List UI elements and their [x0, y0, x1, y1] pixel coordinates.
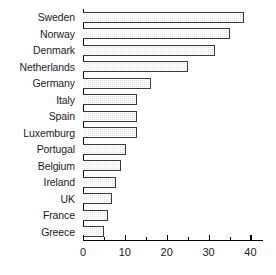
bar-row — [83, 125, 263, 142]
x-axis-tick-minor — [188, 237, 189, 241]
category-label: Spain — [0, 108, 79, 125]
bar — [83, 177, 116, 188]
x-axis-tick-major — [209, 235, 210, 241]
x-axis-tick-major — [125, 235, 126, 241]
bar-row — [83, 108, 263, 125]
bar — [83, 28, 230, 39]
bar-chart: SwedenNorwayDenmarkNetherlandsGermanyIta… — [0, 0, 276, 275]
x-axis-tick-major — [83, 235, 84, 241]
x-axis-tick-label: 20 — [161, 245, 173, 259]
category-label: Belgium — [0, 158, 79, 175]
x-axis — [83, 240, 263, 242]
x-axis-tick-label: 0 — [80, 245, 86, 259]
bar — [83, 144, 126, 155]
x-axis-tick-minor — [230, 237, 231, 241]
x-axis-tick-label: 10 — [119, 245, 131, 259]
bar — [83, 226, 104, 237]
bar-series — [83, 9, 263, 240]
bar-row — [83, 26, 263, 43]
x-axis-tick-minor — [104, 237, 105, 241]
category-axis-labels: SwedenNorwayDenmarkNetherlandsGermanyIta… — [0, 9, 79, 240]
category-label: Netherlands — [0, 59, 79, 76]
x-axis-tick-minor — [146, 237, 147, 241]
x-axis-tick-label: 30 — [202, 245, 214, 259]
bar-row — [83, 75, 263, 92]
category-label: Italy — [0, 92, 79, 109]
category-label: Ireland — [0, 174, 79, 191]
bar — [83, 210, 108, 221]
x-axis-tick-label: 40 — [244, 245, 256, 259]
bar — [83, 78, 151, 89]
x-axis-tick-major — [167, 235, 168, 241]
category-label: UK — [0, 191, 79, 208]
bar — [83, 45, 215, 56]
category-label: Portugal — [0, 141, 79, 158]
x-axis-tick-major — [250, 235, 251, 241]
category-label: Norway — [0, 26, 79, 43]
bar-row — [83, 59, 263, 76]
bar-row — [83, 9, 263, 26]
plot-area — [83, 9, 263, 240]
bar-row — [83, 224, 263, 241]
category-label: Germany — [0, 75, 79, 92]
bar-row — [83, 158, 263, 175]
bar-row — [83, 92, 263, 109]
bar-row — [83, 191, 263, 208]
category-label: France — [0, 207, 79, 224]
bar — [83, 127, 137, 138]
bar-row — [83, 141, 263, 158]
bar-row — [83, 174, 263, 191]
x-axis-tick-labels: 010203040 — [83, 245, 268, 261]
category-label: Sweden — [0, 9, 79, 26]
category-label: Luxemburg — [0, 125, 79, 142]
bar — [83, 193, 112, 204]
bar — [83, 111, 137, 122]
category-label: Denmark — [0, 42, 79, 59]
bar-row — [83, 207, 263, 224]
bar — [83, 61, 188, 72]
bar-row — [83, 42, 263, 59]
x-axis-line — [83, 240, 263, 241]
bar — [83, 160, 121, 171]
category-label: Greece — [0, 224, 79, 241]
bar — [83, 12, 244, 23]
bar — [83, 94, 137, 105]
